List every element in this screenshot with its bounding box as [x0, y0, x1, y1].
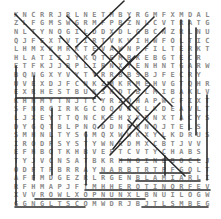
grid-cell[interactable]: U [160, 191, 169, 200]
grid-cell[interactable]: K [186, 88, 195, 97]
grid-cell[interactable]: W [203, 62, 212, 71]
grid-cell[interactable]: G [55, 174, 64, 183]
grid-cell[interactable]: I [142, 157, 151, 166]
grid-cell[interactable]: M [20, 131, 29, 140]
grid-cell[interactable]: L [194, 105, 203, 114]
grid-cell[interactable]: K [116, 37, 125, 46]
grid-cell[interactable]: G [20, 200, 29, 209]
grid-cell[interactable]: A [194, 11, 203, 20]
grid-cell[interactable]: O [55, 28, 64, 37]
grid-cell[interactable]: R [186, 71, 195, 80]
grid-cell[interactable]: T [99, 54, 108, 63]
grid-cell[interactable]: Y [151, 148, 160, 157]
grid-cell[interactable]: Y [90, 71, 99, 80]
grid-cell[interactable]: T [142, 148, 151, 157]
grid-cell[interactable]: T [81, 183, 90, 192]
grid-cell[interactable]: R [116, 140, 125, 149]
grid-cell[interactable]: C [203, 37, 212, 46]
grid-cell[interactable]: K [64, 148, 73, 157]
grid-cell[interactable]: X [168, 11, 177, 20]
grid-cell[interactable]: F [160, 37, 169, 46]
grid-cell[interactable]: H [116, 157, 125, 166]
grid-cell[interactable]: T [81, 45, 90, 54]
grid-cell[interactable]: G [73, 19, 82, 28]
grid-cell[interactable]: E [29, 80, 38, 89]
grid-cell[interactable]: O [151, 123, 160, 132]
grid-cell[interactable]: A [81, 166, 90, 175]
grid-cell[interactable]: K [38, 62, 47, 71]
grid-cell[interactable]: C [151, 28, 160, 37]
grid-cell[interactable]: N [38, 131, 47, 140]
grid-cell[interactable]: N [12, 28, 21, 37]
grid-cell[interactable]: L [64, 191, 73, 200]
grid-cell[interactable]: Y [125, 62, 134, 71]
grid-cell[interactable]: C [29, 11, 38, 20]
grid-cell[interactable]: F [142, 45, 151, 54]
word-search-grid[interactable]: KNCRRJRLNETMBYRGMFXMDALZLFGMSWGRMFPBZNLC… [11, 10, 213, 210]
grid-cell[interactable]: D [46, 174, 55, 183]
grid-cell[interactable]: D [116, 28, 125, 37]
grid-cell[interactable]: W [116, 45, 125, 54]
grid-cell[interactable]: A [177, 174, 186, 183]
grid-cell[interactable]: X [125, 114, 134, 123]
grid-cell[interactable]: V [194, 140, 203, 149]
grid-cell[interactable]: R [29, 88, 38, 97]
grid-cell[interactable]: F [29, 19, 38, 28]
grid-cell[interactable]: N [29, 71, 38, 80]
grid-cell[interactable]: G [177, 62, 186, 71]
grid-cell[interactable]: T [38, 54, 47, 63]
grid-cell[interactable]: A [73, 157, 82, 166]
grid-cell[interactable]: J [55, 11, 64, 20]
grid-cell[interactable]: B [168, 88, 177, 97]
grid-cell[interactable]: X [38, 80, 47, 89]
grid-cell[interactable]: G [133, 28, 142, 37]
grid-cell[interactable]: T [203, 105, 212, 114]
grid-cell[interactable]: A [107, 166, 116, 175]
grid-cell[interactable]: A [29, 54, 38, 63]
grid-cell[interactable]: P [107, 19, 116, 28]
grid-cell[interactable]: R [177, 19, 186, 28]
grid-cell[interactable]: H [20, 97, 29, 106]
grid-cell[interactable]: Z [73, 174, 82, 183]
grid-cell[interactable]: R [186, 45, 195, 54]
grid-cell[interactable]: W [116, 131, 125, 140]
grid-cell[interactable]: E [177, 54, 186, 63]
grid-cell[interactable]: N [125, 174, 134, 183]
grid-cell[interactable]: H [151, 62, 160, 71]
grid-cell[interactable]: X [116, 62, 125, 71]
grid-cell[interactable]: E [116, 174, 125, 183]
grid-cell[interactable]: Y [73, 71, 82, 80]
grid-cell[interactable]: R [64, 45, 73, 54]
grid-cell[interactable]: J [125, 200, 134, 209]
grid-cell[interactable]: A [12, 174, 21, 183]
grid-cell[interactable]: L [142, 19, 151, 28]
grid-cell[interactable]: O [81, 191, 90, 200]
grid-cell[interactable]: G [160, 54, 169, 63]
grid-cell[interactable]: R [73, 166, 82, 175]
grid-cell[interactable]: V [116, 105, 125, 114]
grid-cell[interactable]: T [194, 19, 203, 28]
grid-cell[interactable]: W [151, 37, 160, 46]
grid-cell[interactable]: E [194, 200, 203, 209]
grid-cell[interactable]: D [107, 123, 116, 132]
grid-cell[interactable]: B [186, 200, 195, 209]
grid-cell[interactable]: T [125, 88, 134, 97]
grid-cell[interactable]: Z [168, 28, 177, 37]
grid-cell[interactable]: F [20, 174, 29, 183]
grid-cell[interactable]: V [20, 191, 29, 200]
grid-cell[interactable]: D [186, 11, 195, 20]
grid-cell[interactable]: R [38, 105, 47, 114]
grid-cell[interactable]: T [168, 123, 177, 132]
grid-cell[interactable]: G [81, 105, 90, 114]
grid-cell[interactable]: O [177, 157, 186, 166]
grid-cell[interactable]: M [177, 11, 186, 20]
grid-cell[interactable]: X [125, 191, 134, 200]
grid-cell[interactable]: R [38, 11, 47, 20]
grid-cell[interactable]: C [177, 71, 186, 80]
grid-cell[interactable]: K [90, 80, 99, 89]
grid-cell[interactable]: F [160, 71, 169, 80]
grid-cell[interactable]: M [151, 88, 160, 97]
grid-cell[interactable]: C [90, 97, 99, 106]
grid-cell[interactable]: R [81, 174, 90, 183]
grid-cell[interactable]: Y [38, 28, 47, 37]
